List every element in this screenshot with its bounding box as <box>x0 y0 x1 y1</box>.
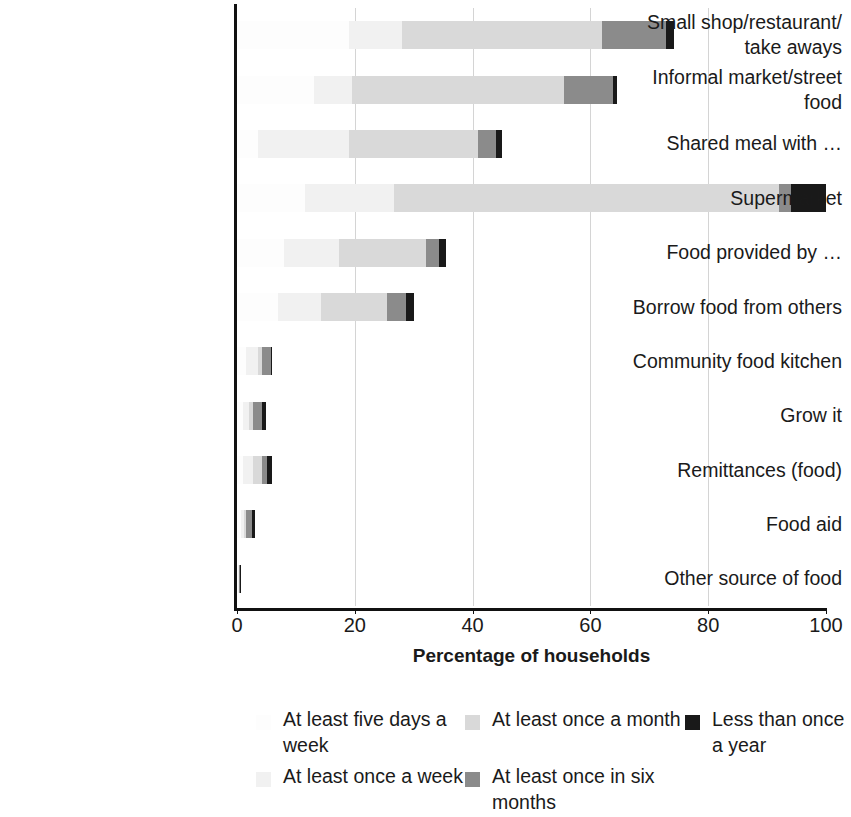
bar-segment <box>262 347 271 375</box>
bar-segment <box>426 239 439 267</box>
category-label: Supermarket <box>623 186 851 211</box>
category-label: Remittances (food) <box>623 458 851 483</box>
x-tick-label-0: 0 <box>231 614 242 637</box>
bar-segment <box>246 347 258 375</box>
bar-segment <box>237 347 246 375</box>
category-label: Food provided by … <box>623 240 851 265</box>
category-label: Informal market/street food <box>623 65 851 115</box>
bar-segment <box>271 347 272 375</box>
bar-segment <box>267 456 272 484</box>
bar-segment <box>314 76 352 104</box>
chart-legend: At least five days a weekAt least once a… <box>243 706 851 817</box>
bar-segment <box>253 456 262 484</box>
legend-item: At least five days a week <box>256 706 466 758</box>
category-label: Other source of food <box>623 566 851 591</box>
x-axis-line <box>234 608 826 611</box>
y-axis-line <box>234 4 237 611</box>
legend-label: At least five days a week <box>283 706 466 758</box>
bar-segment <box>237 130 258 158</box>
legend-item: Less than once a year <box>685 706 851 758</box>
stacked-bar-chart: 020406080100 Percentage of households Sm… <box>0 0 851 817</box>
bar-segment <box>352 76 564 104</box>
bar-segment <box>278 293 320 321</box>
x-tick-label-40: 40 <box>461 614 483 637</box>
x-tick-label-100: 100 <box>809 614 842 637</box>
bar-segment <box>237 21 349 49</box>
bar-segment <box>439 239 446 267</box>
bar-segment <box>237 76 314 104</box>
category-label: Borrow food from others <box>623 295 851 320</box>
bar-segment <box>564 76 613 104</box>
legend-label: Less than once a year <box>712 706 851 758</box>
legend-swatch-icon <box>465 772 480 787</box>
legend-label: At least once a month <box>492 706 685 732</box>
category-label: Community food kitchen <box>623 349 851 374</box>
category-label: Food aid <box>623 512 851 537</box>
bar-segment <box>305 184 395 212</box>
bar-segment <box>402 21 602 49</box>
bar-segment <box>253 402 262 430</box>
legend-item: At least once in six months <box>465 763 685 815</box>
category-label: Shared meal with … <box>623 131 851 156</box>
legend-column-3: Less than once a year <box>685 706 851 763</box>
bar-segment <box>387 293 406 321</box>
bar-segment <box>252 510 255 538</box>
bar-segment <box>237 184 305 212</box>
bar-segment <box>243 456 253 484</box>
bar-segment <box>284 239 339 267</box>
bar-segment <box>240 565 241 593</box>
category-label: Small shop/restaurant/ take aways <box>623 10 851 60</box>
legend-swatch-icon <box>256 772 271 787</box>
legend-item: At least once a month <box>465 706 685 758</box>
bar-segment <box>237 239 284 267</box>
legend-swatch-icon <box>465 715 480 730</box>
legend-column-2: At least once a monthAt least once in si… <box>465 706 685 817</box>
legend-swatch-icon <box>685 715 700 730</box>
legend-item: At least once a week <box>256 763 466 815</box>
legend-label: At least once in six months <box>492 763 685 815</box>
bar-segment <box>339 239 426 267</box>
category-label: Grow it <box>623 403 851 428</box>
x-tick-label-60: 60 <box>579 614 601 637</box>
bar-segment <box>321 293 388 321</box>
bar-segment <box>349 21 402 49</box>
x-tick-label-80: 80 <box>697 614 719 637</box>
legend-label: At least once a week <box>283 763 466 789</box>
bar-segment <box>613 76 617 104</box>
bar-segment <box>258 130 349 158</box>
bar-segment <box>406 293 414 321</box>
bar-segment <box>262 402 267 430</box>
bar-segment <box>237 293 278 321</box>
legend-swatch-icon <box>256 715 271 730</box>
x-tick-label-20: 20 <box>344 614 366 637</box>
bar-segment <box>478 130 495 158</box>
x-axis-title: Percentage of households <box>237 645 826 667</box>
bar-segment <box>349 130 479 158</box>
legend-column-1: At least five days a weekAt least once a… <box>256 706 466 817</box>
bar-segment <box>496 130 502 158</box>
